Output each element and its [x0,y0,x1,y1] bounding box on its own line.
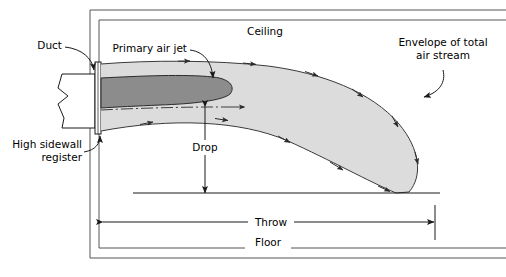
drop-label-text: Drop [192,141,218,153]
envelope-leader [424,70,444,97]
high-sidewall-register-label-line2: register [42,151,83,163]
duct-label: Duct [37,39,62,51]
envelope-label-line1: Envelope of total [398,36,487,48]
register-symbol [95,62,101,134]
envelope-label-line2: air stream [416,49,470,61]
throw-label: Throw [254,216,288,228]
duct-symbol [62,74,95,128]
ceiling-label: Ceiling [247,25,283,37]
high-sidewall-register-label-line1: High sidewall [12,138,82,150]
air-distribution-diagram: Drop Drop Throw Ceiling Floor Duct Prima… [0,0,506,277]
floor-label: Floor [255,236,282,248]
primary-air-jet-label: Primary air jet [113,42,187,54]
high-sidewall-register-leader [84,136,100,152]
